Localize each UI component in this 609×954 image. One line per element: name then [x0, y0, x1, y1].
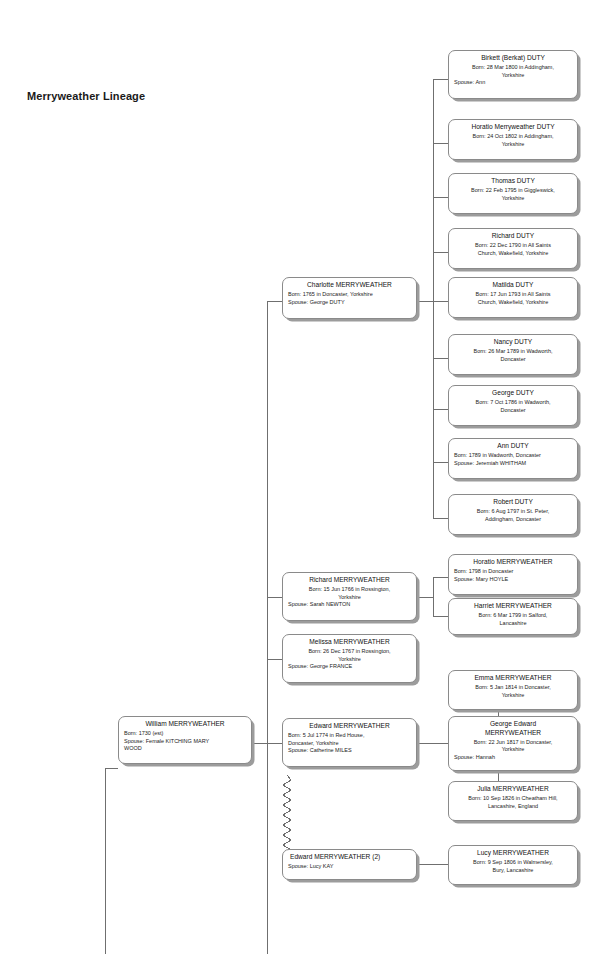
person-node-thomas-duty[interactable]: Thomas DUTY Born: 22 Feb 1795 in Giggles… — [448, 173, 578, 214]
person-spouse: Spouse: Jeremiah WHITHAM — [454, 460, 572, 467]
person-birth: Born: 17 Jun 1793 in All Saints Church, … — [454, 291, 572, 306]
person-node-william-merryweather[interactable]: William MERRYWEATHER Born: 1730 (est) Sp… — [118, 716, 252, 764]
person-node-horatio-merryweather[interactable]: Horatio MERRYWEATHER Born: 1798 in Donca… — [448, 554, 578, 595]
person-birth: Born: 1798 in Doncaster — [454, 568, 572, 575]
person-name: Horatio Merryweather DUTY — [454, 123, 572, 132]
person-node-charlotte-merryweather[interactable]: Charlotte MERRYWEATHER Born: 1765 in Don… — [282, 277, 417, 319]
person-node-george-duty[interactable]: George DUTY Born: 7 Oct 1786 in Wadworth… — [448, 385, 578, 426]
person-node-harriet-merryweather[interactable]: Harriet MERRYWEATHER Born: 6 Mar 1799 in… — [448, 598, 578, 635]
person-birth: Born: 1730 (est) — [124, 730, 246, 737]
person-node-horatio-merryweather-duty[interactable]: Horatio Merryweather DUTY Born: 24 Oct 1… — [448, 119, 578, 160]
person-spouse: Spouse: Lucy KAY — [288, 863, 411, 870]
genealogy-chart: Merryweather Lineage — [0, 0, 609, 954]
person-node-emma-merryweather[interactable]: Emma MERRYWEATHER Born: 5 Jan 1814 in Do… — [448, 670, 578, 710]
person-node-birkett-duty[interactable]: Birkett (Berkat) DUTY Born: 28 Mar 1800 … — [448, 50, 578, 99]
person-node-nancy-duty[interactable]: Nancy DUTY Born: 26 Mar 1789 in Wadworth… — [448, 334, 578, 375]
person-name: Ann DUTY — [454, 442, 572, 451]
person-name: Edward MERRYWEATHER (2) — [288, 853, 411, 862]
person-birth: Born: 26 Mar 1789 in Wadworth, Doncaster — [454, 348, 572, 363]
person-name: Birkett (Berkat) DUTY — [454, 54, 572, 63]
person-node-melissa-merryweather[interactable]: Melissa MERRYWEATHER Born: 26 Dec 1767 i… — [282, 634, 417, 683]
person-birth: Born: 1765 in Doncaster, Yorkshire — [288, 291, 411, 298]
person-birth: Born: 22 Dec 1790 in All Saints Church, … — [454, 242, 572, 257]
person-name: Edward MERRYWEATHER — [288, 722, 411, 731]
person-spouse: Spouse: Hannah — [454, 754, 572, 761]
person-birth: Born: 5 Jan 1814 in Doncaster, Yorkshire — [454, 684, 572, 699]
person-birth: Born: 28 Mar 1800 in Addingham, Yorkshir… — [454, 64, 572, 79]
person-birth: Born: 26 Dec 1767 in Rossington, Yorkshi… — [288, 648, 411, 663]
person-node-ann-duty[interactable]: Ann DUTY Born: 1789 in Wadworth, Doncast… — [448, 438, 578, 479]
person-name: Emma MERRYWEATHER — [454, 674, 572, 683]
person-name: Matilda DUTY — [454, 281, 572, 290]
person-spouse: Spouse: George FRANCE — [288, 663, 411, 670]
person-node-julia-merryweather[interactable]: Julia MERRYWEATHER Born: 10 Sep 1826 in … — [448, 781, 578, 821]
person-birth: Born: 24 Oct 1802 in Addingham, Yorkshir… — [454, 133, 572, 148]
person-name: Julia MERRYWEATHER — [454, 785, 572, 794]
person-birth: Born: 6 Mar 1799 in Salford, Lancashire — [454, 612, 572, 627]
person-birth: Born: 22 Jun 1817 in Doncaster, Yorkshir… — [454, 739, 572, 754]
person-name: Thomas DUTY — [454, 177, 572, 186]
person-name: George DUTY — [454, 389, 572, 398]
person-spouse: Spouse: Catherine MILES — [288, 747, 411, 754]
person-name: Harriet MERRYWEATHER — [454, 602, 572, 611]
person-spouse: Spouse: Female KITCHING MARY WOOD — [124, 738, 246, 753]
person-spouse: Spouse: Ann — [454, 79, 572, 86]
person-name: George Edward MERRYWEATHER — [454, 720, 572, 737]
person-birth: Born: 22 Feb 1795 in Giggleswick, Yorksh… — [454, 187, 572, 202]
person-spouse: Spouse: Sarah NEWTON — [288, 601, 411, 608]
person-node-edward-merryweather[interactable]: Edward MERRYWEATHER Born: 5 Jul 1774 in … — [282, 718, 417, 767]
person-birth: Born: 5 Jul 1774 in Red House, Doncaster… — [288, 732, 411, 747]
person-name: Lucy MERRYWEATHER — [454, 849, 572, 858]
person-name: Horatio MERRYWEATHER — [454, 558, 572, 567]
person-name: Nancy DUTY — [454, 338, 572, 347]
page-title: Merryweather Lineage — [27, 90, 145, 102]
person-node-george-edward-merryweather[interactable]: George Edward MERRYWEATHER Born: 22 Jun … — [448, 716, 578, 771]
person-name: Richard DUTY — [454, 232, 572, 241]
person-birth: Born: 9 Sep 1806 in Walmersley, Bury, La… — [454, 859, 572, 874]
person-birth: Born: 6 Aug 1797 in St. Peter, Addingham… — [454, 508, 572, 523]
person-spouse: Spouse: George DUTY — [288, 299, 411, 306]
person-name: William MERRYWEATHER — [124, 720, 246, 729]
person-name: Charlotte MERRYWEATHER — [288, 281, 411, 290]
person-node-richard-duty[interactable]: Richard DUTY Born: 22 Dec 1790 in All Sa… — [448, 228, 578, 269]
person-name: Robert DUTY — [454, 498, 572, 507]
person-node-richard-merryweather[interactable]: Richard MERRYWEATHER Born: 15 Jun 1766 i… — [282, 572, 417, 621]
person-name: Richard MERRYWEATHER — [288, 576, 411, 585]
person-node-edward-merryweather-2[interactable]: Edward MERRYWEATHER (2) Spouse: Lucy KAY — [282, 849, 417, 880]
person-node-lucy-merryweather[interactable]: Lucy MERRYWEATHER Born: 9 Sep 1806 in Wa… — [448, 845, 578, 885]
person-birth: Born: 1789 in Wadworth, Doncaster — [454, 452, 572, 459]
person-node-matilda-duty[interactable]: Matilda DUTY Born: 17 Jun 1793 in All Sa… — [448, 277, 578, 318]
person-birth: Born: 15 Jun 1766 in Rossington, Yorkshi… — [288, 586, 411, 601]
person-birth: Born: 7 Oct 1786 in Wadworth, Doncaster — [454, 399, 572, 414]
person-birth: Born: 10 Sep 1826 in Cheatham Hill, Lanc… — [454, 795, 572, 810]
person-name: Melissa MERRYWEATHER — [288, 638, 411, 647]
person-spouse: Spouse: Mary HOYLE — [454, 576, 572, 583]
person-node-robert-duty[interactable]: Robert DUTY Born: 6 Aug 1797 in St. Pete… — [448, 494, 578, 535]
